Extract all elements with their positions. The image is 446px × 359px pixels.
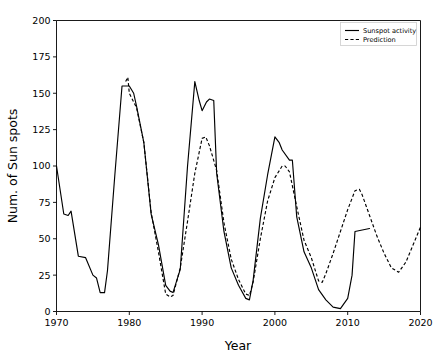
- x-tick-label: 1990: [190, 317, 214, 328]
- y-tick-label: 200: [32, 15, 50, 26]
- x-tick-label: 2000: [263, 317, 287, 328]
- legend-label-sunspot-activity: Sunspot activity: [363, 27, 416, 35]
- x-tick-label: 2020: [408, 317, 432, 328]
- plot-frame: [57, 21, 421, 312]
- x-tick-label: 1980: [117, 317, 141, 328]
- x-tick-label: 2010: [336, 317, 360, 328]
- axes-spines: [57, 21, 421, 312]
- y-tick-label: 100: [32, 160, 50, 171]
- x-axis-ticks: 197019801990200020102020: [44, 312, 432, 328]
- series-sunspot-activity: [57, 82, 370, 309]
- series-prediction: [126, 77, 421, 297]
- legend-label-prediction: Prediction: [363, 36, 396, 44]
- sunspot-chart-figure: 0255075100125150175200 19701980199020002…: [0, 0, 446, 359]
- y-tick-label: 75: [38, 197, 50, 208]
- y-tick-label: 125: [32, 124, 50, 135]
- y-tick-label: 175: [32, 51, 50, 62]
- x-tick-label: 1970: [44, 317, 68, 328]
- y-tick-label: 25: [38, 270, 50, 281]
- y-tick-label: 150: [32, 88, 50, 99]
- y-tick-label: 0: [44, 306, 50, 317]
- data-series-group: [57, 77, 421, 308]
- y-tick-label: 50: [38, 233, 50, 244]
- chart-canvas: 0255075100125150175200 19701980199020002…: [0, 0, 446, 359]
- x-axis-title: Year: [224, 338, 252, 353]
- y-axis-title: Num. of Sun spots: [5, 109, 20, 224]
- y-axis-ticks: 0255075100125150175200: [32, 15, 56, 317]
- chart-legend: Sunspot activity Prediction: [341, 23, 417, 46]
